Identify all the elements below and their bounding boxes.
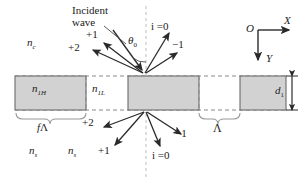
incidence-angle-subscript: 0 (133, 41, 137, 49)
high-index-label: n1H (32, 83, 46, 98)
substrate-index-left-label: ns (29, 145, 37, 160)
grating-diffraction-figure: Incident wave θ0 +2 +1 i =0 −1 +2 +1 i =… (0, 0, 303, 184)
transmitted-order-plus2-label: +2 (82, 117, 94, 129)
substrate-index-right-label: ns (68, 145, 76, 160)
incident-wave-line-2: wave (72, 16, 95, 28)
incidence-angle-label: θ0 (128, 35, 137, 50)
axis-y-label: Y (266, 53, 272, 65)
low-index-label: n1L (92, 83, 105, 98)
cover-index-label: nc (27, 37, 36, 52)
cover-index-subscript: c (33, 43, 36, 51)
reflected-order-plus2-label: +2 (68, 42, 80, 54)
transmitted-order-minus1-label: −1 (175, 128, 187, 140)
grating-ridge-left (15, 76, 86, 110)
transmitted-order-zero-label: i =0 (152, 150, 170, 162)
depth-subscript: 1 (281, 91, 285, 99)
fill-factor-lambda-symbol: Λ (40, 121, 48, 133)
reflected-order-minus1-label: −1 (172, 39, 184, 51)
axis-origin-label: O (246, 23, 254, 35)
high-index-subscript: 1H (38, 89, 47, 97)
reflected-order-zero-arrow (145, 33, 169, 73)
reflected-order-zero-label: i =0 (151, 21, 169, 33)
incident-wave-label: Incident wave (72, 4, 108, 29)
low-index-subscript: 1L (98, 89, 105, 97)
transmitted-order-plus1-label: +1 (98, 145, 110, 157)
depth-label: d1 (275, 85, 284, 100)
reflected-order-plus1-label: +1 (86, 29, 98, 41)
incident-wave-line-1: Incident (72, 4, 108, 16)
substrate-index-left-subscript: s (35, 151, 38, 159)
incident-wave-leader-line (104, 26, 126, 44)
transmitted-order-zero-arrow (146, 112, 160, 146)
axis-x-label: X (284, 15, 291, 27)
period-label: Λ (213, 122, 222, 135)
grating-ridge-center (128, 76, 199, 110)
substrate-index-right-subscript: s (74, 151, 77, 159)
fill-factor-label: fΛ (37, 122, 48, 134)
fill-factor-brace (16, 113, 86, 124)
